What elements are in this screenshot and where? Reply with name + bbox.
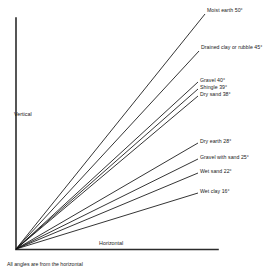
angle-ray-label: Wet clay 16° <box>200 188 230 194</box>
angle-ray <box>16 143 198 249</box>
angle-ray <box>16 173 198 249</box>
angle-ray-label: Gravel with sand 25° <box>200 154 249 160</box>
angle-ray <box>16 14 205 249</box>
angle-ray-label: Wet sand 22° <box>200 168 232 174</box>
angle-of-repose-diagram: Moist earth 50°Drained clay or rubble 45… <box>0 0 280 271</box>
angle-ray-label: Dry earth 28° <box>200 138 231 144</box>
chart-axes <box>16 18 218 250</box>
vertical-axis-label: Vertical <box>14 111 32 117</box>
angle-ray-label: Shingle 39° <box>200 84 227 90</box>
diagram-footnote: All angles are from the horizontal <box>7 261 83 267</box>
angle-ray <box>16 82 198 249</box>
angle-ray-label: Gravel 40° <box>200 77 225 83</box>
angle-ray-group <box>16 14 205 249</box>
repose-chart-canvas: Moist earth 50°Drained clay or rubble 45… <box>0 0 280 271</box>
angle-label-group: Moist earth 50°Drained clay or rubble 45… <box>200 7 262 194</box>
horizontal-axis-label: Horizontal <box>99 240 123 246</box>
angle-ray-label: Drained clay or rubble 45° <box>201 44 262 50</box>
angle-ray-label: Moist earth 50° <box>207 7 243 13</box>
angle-ray-label: Dry sand 38° <box>200 91 231 97</box>
angle-ray <box>16 89 198 249</box>
angle-ray <box>16 51 199 249</box>
